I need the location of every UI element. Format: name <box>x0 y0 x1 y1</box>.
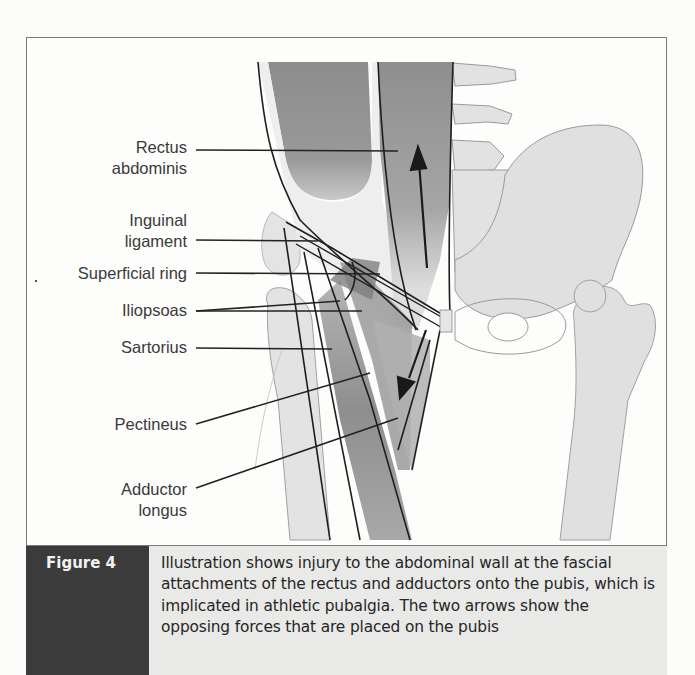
label-line: Iliopsoas <box>122 300 187 321</box>
label-line: Rectus <box>112 137 187 158</box>
caption-text: Illustration shows injury to the abdomin… <box>161 553 657 638</box>
label-sartorius: Sartorius <box>121 337 187 358</box>
label-superficial-ring: Superficial ring <box>78 263 187 284</box>
label-inguinal-ligament: Inguinal ligament <box>125 210 187 252</box>
figure-number-box: Figure 4 <box>26 546 149 675</box>
scan-artifact <box>35 280 37 282</box>
label-line: Pectineus <box>115 414 187 435</box>
label-iliopsoas: Iliopsoas <box>122 300 187 321</box>
rectus-abdominis-muscle <box>268 62 372 200</box>
label-line: Sartorius <box>121 337 187 358</box>
figure-number: Figure 4 <box>46 554 116 572</box>
figure-caption: Figure 4 Illustration shows injury to th… <box>26 546 667 675</box>
label-line: Superficial ring <box>78 263 187 284</box>
label-line: ligament <box>125 231 187 252</box>
label-adductor-longus: Adductor longus <box>121 479 187 521</box>
label-line: Inguinal <box>125 210 187 231</box>
label-pectineus: Pectineus <box>115 414 187 435</box>
label-line: Adductor <box>121 479 187 500</box>
label-line: abdominis <box>112 158 187 179</box>
label-line: longus <box>121 500 187 521</box>
caption-text-box: Illustration shows injury to the abdomin… <box>149 546 667 675</box>
label-rectus-abdominis: Rectus abdominis <box>112 137 187 179</box>
right-femur <box>560 280 655 540</box>
